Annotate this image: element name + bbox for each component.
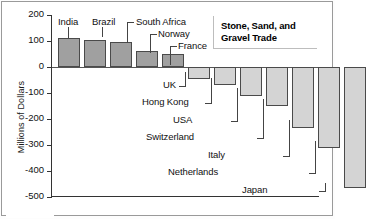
- y-tick-label: 0: [39, 60, 44, 71]
- leader-hong-kong-h: [205, 103, 212, 104]
- callout-brazil: Brazil: [92, 16, 115, 27]
- leader-netherlands: [315, 141, 316, 173]
- figure-bottom-spacer: [6, 214, 54, 218]
- callout-france: France: [178, 40, 207, 51]
- callout-japan: Japan: [242, 184, 267, 195]
- y-tick-label: -300: [25, 138, 44, 149]
- chart-title-box: Stone, Sand, and Gravel Trade: [213, 16, 317, 49]
- chart-title-line1: Stone, Sand, and: [221, 20, 296, 31]
- leader-italy: [289, 120, 290, 156]
- bar-norway[interactable]: [136, 51, 158, 67]
- callout-italy: Italy: [208, 149, 225, 160]
- y-tick-label: -100: [25, 86, 44, 97]
- bar-japan[interactable]: [344, 67, 366, 188]
- leader-france: [170, 46, 171, 65]
- tick-mark: [47, 171, 52, 172]
- leader-india: [68, 27, 69, 38]
- y-tick-label: -200: [25, 112, 44, 123]
- leader-south-africa-h: [127, 22, 134, 23]
- callout-hong-kong: Hong Kong: [142, 96, 189, 107]
- leader-south-africa: [127, 22, 128, 43]
- bar-india[interactable]: [58, 38, 80, 67]
- callout-switzerland: Switzerland: [146, 131, 194, 142]
- leader-switzerland-h: [257, 138, 264, 139]
- y-tick-label: 100: [28, 34, 44, 45]
- bar-netherlands[interactable]: [318, 67, 340, 148]
- callout-south-africa: South Africa: [136, 16, 186, 27]
- tick-mark: [47, 119, 52, 120]
- chart-title-line2: Gravel Trade: [221, 32, 277, 43]
- callout-uk: UK: [163, 79, 176, 90]
- leader-italy-h: [283, 156, 290, 157]
- leader-norway-h: [150, 34, 157, 35]
- leader-usa: [237, 88, 238, 121]
- callout-usa: USA: [173, 114, 192, 125]
- callout-india: India: [58, 16, 78, 27]
- bar-south-africa[interactable]: [110, 42, 132, 67]
- y-tick-label: 200: [28, 8, 44, 19]
- leader-norway: [150, 34, 151, 53]
- tick-mark: [47, 41, 52, 42]
- leader-uk-h: [179, 86, 186, 87]
- y-tick-label: -500: [25, 190, 44, 201]
- leader-netherlands-h: [309, 173, 316, 174]
- bar-uk[interactable]: [188, 67, 210, 79]
- leader-switzerland: [263, 99, 264, 138]
- leader-brazil: [102, 27, 103, 37]
- tick-mark: [47, 15, 52, 16]
- bar-switzerland[interactable]: [266, 67, 288, 106]
- y-tick-label: -400: [25, 164, 44, 175]
- callout-norway: Norway: [158, 28, 190, 39]
- leader-uk: [185, 72, 186, 86]
- bar-italy[interactable]: [292, 67, 314, 128]
- bar-usa[interactable]: [240, 67, 262, 96]
- bar-brazil[interactable]: [84, 40, 106, 67]
- leader-hong-kong: [211, 78, 212, 103]
- leader-japan-h: [319, 191, 326, 192]
- bar-france[interactable]: [162, 54, 184, 67]
- chart-title: Stone, Sand, and Gravel Trade: [221, 20, 312, 43]
- tick-mark: [47, 197, 52, 198]
- bar-hong-kong[interactable]: [214, 67, 236, 85]
- tick-mark: [47, 93, 52, 94]
- leader-france-h: [170, 46, 177, 47]
- leader-usa-h: [231, 121, 238, 122]
- callout-netherlands: Netherlands: [168, 166, 218, 177]
- tick-mark: [47, 145, 52, 146]
